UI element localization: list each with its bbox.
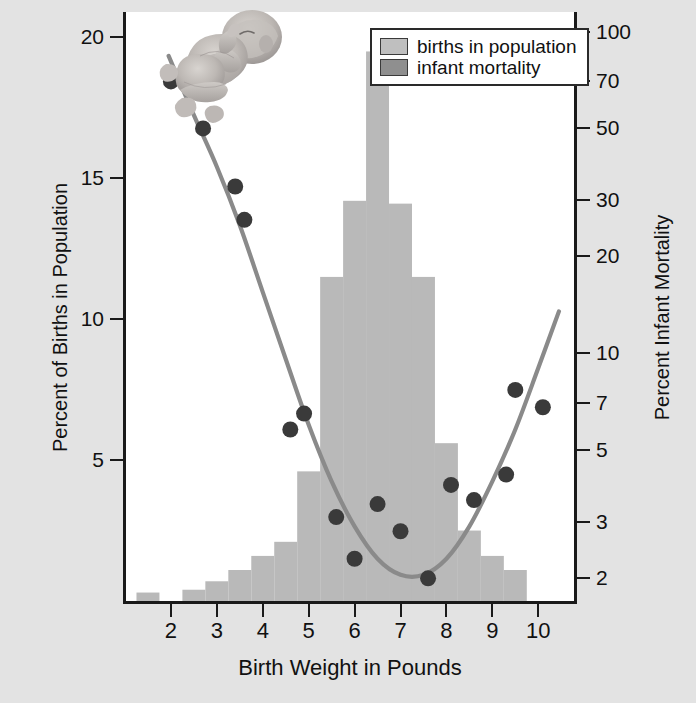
y-tick-left (110, 36, 124, 38)
y-tick-right (576, 402, 590, 404)
x-tick (170, 604, 172, 617)
y-tick-label-right: 5 (596, 439, 608, 460)
x-tick (400, 604, 402, 617)
y-tick-label-right: 20 (596, 245, 619, 266)
data-point (227, 178, 243, 194)
y-tick-right (576, 127, 590, 129)
legend-item-births: births in population (380, 37, 577, 56)
legend-swatch-mortality (380, 59, 408, 76)
x-axis-title: Birth Weight in Pounds (125, 655, 575, 681)
data-point (535, 399, 551, 415)
x-tick-label: 3 (197, 620, 237, 642)
y-axis-right-title: Percent Infant Mortality (651, 108, 674, 528)
x-tick-label: 8 (426, 620, 466, 642)
y-tick-right (576, 352, 590, 354)
y-axis-left-line (123, 12, 126, 604)
data-point (498, 467, 514, 483)
x-tick (216, 604, 218, 617)
y-axis-left-title: Percent of Births in Population (49, 108, 72, 528)
data-point (507, 382, 523, 398)
x-tick-label: 10 (518, 620, 558, 642)
y-tick-label-right: 2 (596, 567, 608, 588)
x-tick-label: 2 (151, 620, 191, 642)
data-point (466, 492, 482, 508)
histogram-bar (412, 277, 435, 601)
histogram-bar (228, 570, 251, 601)
legend-item-mortality: infant mortality (380, 58, 577, 77)
x-tick (445, 604, 447, 617)
y-tick-left (110, 177, 124, 179)
histogram-bar (320, 277, 343, 601)
legend-label-births: births in population (417, 37, 577, 56)
y-tick-right (576, 577, 590, 579)
x-tick-label: 4 (243, 620, 283, 642)
data-point (347, 551, 363, 567)
y-tick-right (576, 199, 590, 201)
histogram-bar (297, 471, 320, 601)
newborn-baby-illustration (148, 4, 298, 124)
histogram-bar (504, 570, 527, 601)
histogram-bar (274, 542, 297, 601)
y-tick-label-right: 30 (596, 189, 619, 210)
x-tick (537, 604, 539, 617)
y-axis-right-line (574, 12, 577, 604)
data-point (328, 509, 344, 525)
y-tick-label-right: 70 (596, 70, 619, 91)
x-tick-label: 9 (472, 620, 512, 642)
y-tick-label-right: 50 (596, 117, 619, 138)
x-tick-label: 6 (335, 620, 375, 642)
histogram-bar (205, 581, 228, 601)
legend-label-mortality: infant mortality (417, 58, 541, 77)
histogram-bar (182, 590, 205, 601)
y-tick-right (576, 255, 590, 257)
data-point (370, 496, 386, 512)
chart-figure: 5101520 23571020305070100 2345678910 Per… (0, 0, 696, 703)
y-tick-left (110, 459, 124, 461)
y-tick-right (576, 521, 590, 523)
histogram-bar (389, 204, 412, 601)
legend: births in population infant mortality (370, 28, 589, 86)
histogram-bar (136, 593, 159, 601)
y-tick-label-right: 3 (596, 511, 608, 532)
x-tick (308, 604, 310, 617)
data-point (282, 421, 298, 437)
x-tick-label: 5 (289, 620, 329, 642)
data-point (296, 406, 312, 422)
data-point (420, 570, 436, 586)
y-tick-label-left: 20 (62, 26, 104, 47)
x-axis-line (123, 601, 577, 604)
y-tick-label-right: 7 (596, 392, 608, 413)
histogram-bar (251, 556, 274, 601)
histogram-bar (366, 51, 389, 601)
y-tick-label-right: 10 (596, 342, 619, 363)
y-tick-left (110, 318, 124, 320)
data-point (443, 477, 459, 493)
x-tick-label: 7 (381, 620, 421, 642)
x-tick (491, 604, 493, 617)
y-tick-label-right: 100 (596, 21, 631, 42)
x-tick (262, 604, 264, 617)
histogram-bar (481, 556, 504, 601)
data-point (393, 523, 409, 539)
data-point (236, 212, 252, 228)
histogram-bar (435, 443, 458, 601)
y-tick-right (576, 449, 590, 451)
x-tick (354, 604, 356, 617)
legend-swatch-births (380, 38, 408, 55)
